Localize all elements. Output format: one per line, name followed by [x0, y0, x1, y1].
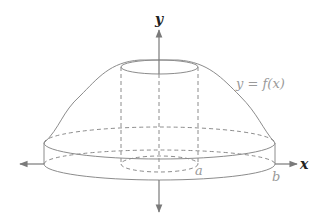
curve-label: y = f(x) [236, 77, 285, 90]
solid-of-revolution-diagram: y x y = f(x) a b [0, 0, 322, 224]
y-axis-label: y [155, 12, 163, 26]
x-axis-label: x [300, 157, 308, 171]
diagram-canvas [0, 0, 322, 224]
outer-radius-label: b [272, 170, 280, 183]
inner-radius-label: a [195, 164, 203, 177]
